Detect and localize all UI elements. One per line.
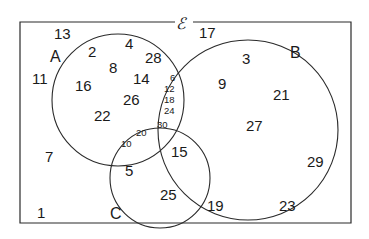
element-15: 15	[171, 143, 188, 160]
element-8: 8	[109, 59, 117, 76]
element-3: 3	[242, 50, 250, 67]
element-25: 25	[160, 186, 177, 203]
element-6: 6	[170, 72, 175, 83]
set-label-c: C	[110, 205, 122, 222]
element-12: 12	[164, 83, 175, 94]
element-4: 4	[125, 35, 133, 52]
universal-set-label: ℰ	[176, 14, 188, 33]
element-2: 2	[88, 43, 96, 60]
element-22: 22	[94, 107, 111, 124]
element-16: 16	[75, 77, 92, 94]
element-14: 14	[133, 70, 150, 87]
element-28: 28	[145, 49, 162, 66]
venn-diagram: ℰ A B C 13 11 7 1 17 29 19 23 2 4 8 28 1…	[0, 0, 369, 239]
element-29: 29	[307, 153, 324, 170]
element-18: 18	[164, 94, 175, 105]
element-24: 24	[164, 105, 175, 116]
universal-set-rectangle	[20, 22, 351, 223]
element-30: 30	[157, 119, 168, 130]
element-19: 19	[207, 197, 224, 214]
element-7: 7	[45, 148, 53, 165]
element-26: 26	[123, 91, 140, 108]
element-21: 21	[273, 86, 290, 103]
element-10: 10	[121, 138, 132, 149]
element-1: 1	[37, 204, 45, 221]
element-13: 13	[54, 25, 71, 42]
element-17: 17	[199, 24, 216, 41]
element-9: 9	[218, 75, 226, 92]
set-label-b: B	[290, 44, 301, 61]
element-11: 11	[32, 70, 48, 87]
set-label-a: A	[50, 48, 61, 65]
element-20: 20	[136, 127, 147, 138]
element-23: 23	[279, 197, 296, 214]
element-5: 5	[125, 162, 133, 179]
element-27: 27	[246, 117, 263, 134]
